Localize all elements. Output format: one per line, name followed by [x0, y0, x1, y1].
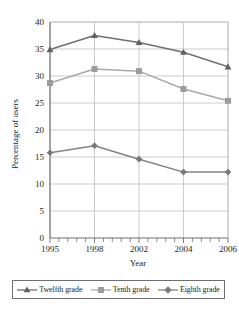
y-tick-label: 20: [35, 125, 45, 135]
y-axis-ticks: 0510152025303540: [35, 17, 45, 243]
data-point-square: [136, 68, 142, 74]
y-axis-title: Percentage of users: [10, 99, 20, 169]
data-point-square: [181, 86, 187, 92]
y-tick-label: 15: [35, 152, 45, 162]
y-tick-label: 35: [35, 44, 45, 54]
data-point-square: [92, 66, 98, 72]
y-tick-label: 5: [40, 206, 45, 216]
legend-label-twelfth-grade: Twelfth grade: [39, 285, 82, 294]
data-point-diamond: [180, 169, 187, 176]
legend-label-tenth-grade: Tenth grade: [113, 285, 150, 294]
diamond-marker-icon: [158, 285, 178, 295]
triangle-marker-icon: [17, 285, 37, 295]
chart-legend: Twelfth grade Tenth grade Eighth grade: [12, 280, 225, 299]
chart-plot-container: Percentage of users Year 051015202530354…: [0, 0, 239, 272]
data-point-diamond: [225, 169, 232, 176]
x-axis-title: Year: [130, 258, 147, 268]
y-tick-label: 30: [35, 71, 45, 81]
x-tick-label: 1995: [41, 244, 60, 254]
y-tick-label: 25: [35, 98, 45, 108]
x-axis-ticks: 19951998200220042006: [41, 238, 238, 254]
x-tick-label: 2004: [175, 244, 194, 254]
x-tick-label: 2006: [219, 244, 238, 254]
square-marker-icon: [91, 285, 111, 295]
y-tick-label: 40: [35, 17, 45, 27]
legend-label-eighth-grade: Eighth grade: [180, 285, 220, 294]
y-tick-label: 10: [35, 179, 45, 189]
line-chart: Percentage of users Year 051015202530354…: [0, 0, 239, 272]
data-point-diamond: [47, 149, 54, 156]
legend-item-tenth-grade[interactable]: Tenth grade: [90, 285, 151, 295]
data-point-diamond: [91, 142, 98, 149]
gridlines: [50, 22, 228, 238]
x-tick-label: 1998: [86, 244, 105, 254]
data-point-triangle: [91, 32, 98, 38]
chart-figure: Percentage of users Year 051015202530354…: [0, 0, 239, 312]
x-tick-label: 2002: [130, 244, 148, 254]
y-tick-label: 0: [40, 233, 45, 243]
data-point-square: [47, 80, 53, 86]
legend-item-eighth-grade[interactable]: Eighth grade: [157, 285, 221, 295]
data-point-square: [225, 98, 231, 104]
legend-item-twelfth-grade[interactable]: Twelfth grade: [16, 285, 83, 295]
